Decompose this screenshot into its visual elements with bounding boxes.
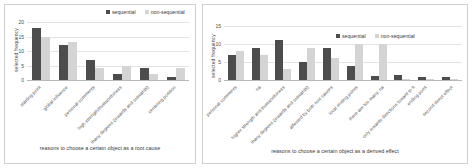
y-tick-left-20: 20 (14, 19, 24, 25)
x-axis-line-right (224, 80, 462, 81)
bar-group-centering-position (162, 22, 189, 80)
legend-label-sequential: sequential (112, 9, 136, 15)
bar-non-sequential (331, 58, 339, 80)
y-tick-left-15: 15 (14, 34, 24, 40)
y-tick-left-0: 0 (14, 77, 24, 83)
bar-sequential (86, 60, 95, 80)
bar-group-many-degrees (295, 26, 319, 80)
chart-panel-root-cause: sequential non-sequential selected frequ… (0, 0, 200, 168)
bar-sequential (252, 48, 260, 80)
y-tick-left-5: 5 (14, 63, 24, 69)
bar-sequential (394, 75, 402, 80)
bar-group-starting-point (27, 22, 54, 80)
bar-sequential (442, 77, 450, 80)
bar-group-na (248, 26, 272, 80)
chart-panel-derived-effect: sequential non-sequential selected frequ… (200, 0, 472, 168)
bar-group-many-degrees (135, 22, 162, 80)
bar-non-sequential (379, 44, 387, 80)
bar-group-affected-by-both-root-causes (319, 26, 343, 80)
y-tick-left-10: 10 (14, 48, 24, 54)
two-panel-bar-chart-figure: sequential non-sequential selected frequ… (0, 0, 472, 168)
bar-non-sequential (95, 68, 104, 80)
bar-group-local-ending-points (343, 26, 367, 80)
bar-sequential (140, 68, 149, 80)
bar-non-sequential (122, 66, 131, 81)
bar-group-ending-point (414, 26, 438, 80)
bar-group-there-are-too-many-na (367, 26, 391, 80)
bar-sequential (59, 45, 68, 80)
y-tick-right-5: 5 (211, 59, 221, 65)
bar-sequential (228, 55, 236, 80)
bar-sequential (323, 48, 331, 80)
bar-group-second-direct-effect (438, 26, 462, 80)
plot-area-right (224, 26, 462, 80)
legend-swatch-non-sequential-icon (145, 10, 149, 14)
legend-label-non-sequential: non-sequential (151, 9, 185, 15)
bar-non-sequential (426, 79, 434, 81)
bar-sequential (32, 28, 41, 80)
y-tick-right-0: 0 (211, 77, 221, 83)
bar-non-sequential (450, 79, 458, 80)
bar-sequential (167, 77, 176, 80)
y-tick-right-10: 10 (211, 41, 221, 47)
bar-non-sequential (236, 51, 244, 80)
bar-sequential (113, 74, 122, 80)
legend-swatch-sequential-icon (106, 10, 110, 14)
bar-group-global-influence (54, 22, 81, 80)
plot-area-left (27, 22, 189, 80)
bar-sequential (299, 62, 307, 80)
bar-non-sequential (355, 44, 363, 80)
x-axis-title-right: reasons to choose a certain object as a … (202, 148, 468, 154)
bar-group-personal-comments (224, 26, 248, 80)
bar-group-higher-strength-trustworthiness (272, 26, 296, 80)
bar-non-sequential (307, 48, 315, 80)
bar-non-sequential (176, 68, 185, 80)
bar-sequential (371, 76, 379, 80)
bar-group-only-inwards-directions (391, 26, 415, 80)
bar-non-sequential (402, 79, 410, 81)
y-tick-right-15: 15 (211, 23, 221, 29)
legend-entry-non-sequential: non-sequential (145, 9, 185, 15)
bar-non-sequential (41, 37, 50, 81)
bar-sequential (275, 40, 283, 80)
legend-entry-sequential: sequential (106, 9, 136, 15)
bar-non-sequential (260, 55, 268, 80)
bar-group-high-strength-trustworthiness (108, 22, 135, 80)
x-axis-line-left (27, 80, 189, 81)
x-axis-title-left: reasons to choose a certain object as a … (4, 145, 196, 151)
bar-non-sequential (283, 69, 291, 80)
bar-non-sequential (68, 42, 77, 80)
bar-group-personal-comments (81, 22, 108, 80)
legend-left: sequential non-sequential (106, 9, 185, 15)
bar-sequential (418, 77, 426, 80)
bar-non-sequential (149, 74, 158, 80)
bar-sequential (347, 66, 355, 80)
